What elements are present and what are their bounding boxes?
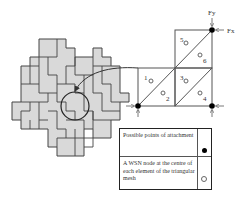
svg-text:1: 1 <box>144 74 148 82</box>
open-dot-icon <box>197 168 211 186</box>
legend: Possible points of attachment A WSN node… <box>119 128 212 190</box>
filled-dot-icon <box>197 139 211 157</box>
svg-text:4: 4 <box>203 95 207 103</box>
svg-text:2: 2 <box>166 95 170 103</box>
fy-label: Fy <box>208 9 216 17</box>
legend-row-attachment: Possible points of attachment <box>120 129 211 157</box>
legend-text: Possible points of attachment <box>123 132 195 140</box>
svg-text:3: 3 <box>180 74 184 82</box>
legend-text: A WSN node at the centre of each element… <box>123 160 195 183</box>
legend-row-wsn-node: A WSN node at the centre of each element… <box>120 157 211 189</box>
svg-text:5: 5 <box>180 36 184 44</box>
fx-label: Fx <box>227 27 235 35</box>
svg-text:6: 6 <box>203 57 207 65</box>
